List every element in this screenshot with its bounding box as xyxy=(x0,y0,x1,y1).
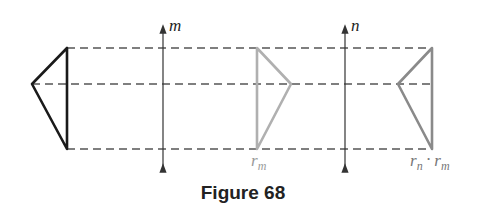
triangle-reflection-m xyxy=(257,48,291,149)
figure-caption: Figure 68 xyxy=(0,182,486,204)
label-rn-rm: rn·rm xyxy=(410,150,450,173)
triangle-original xyxy=(32,48,67,149)
label-r-m: rm xyxy=(251,151,267,173)
axis-m-label: m xyxy=(169,16,181,35)
dashed-guides xyxy=(32,48,432,149)
axis-n-label: n xyxy=(351,16,360,35)
triangle-reflection-n-of-m xyxy=(398,48,432,149)
